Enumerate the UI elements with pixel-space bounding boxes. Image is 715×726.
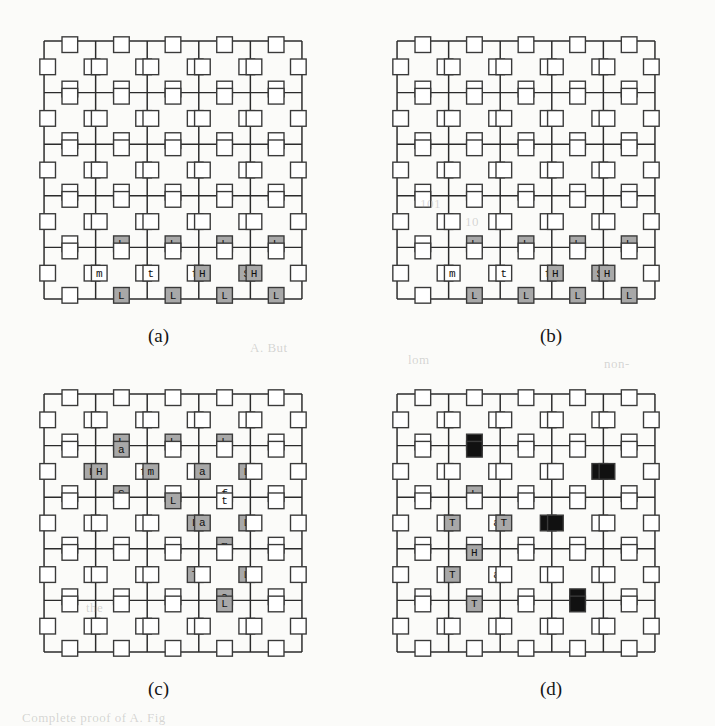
site-empty[interactable] [415, 288, 431, 304]
site-empty[interactable] [548, 412, 564, 428]
site-empty[interactable] [548, 59, 564, 75]
site-shaded[interactable]: T [496, 515, 512, 531]
site-empty[interactable] [496, 618, 512, 634]
site-empty[interactable] [467, 140, 483, 156]
site-empty[interactable] [496, 214, 512, 230]
site-empty[interactable] [548, 214, 564, 230]
site-empty[interactable] [518, 441, 534, 457]
site-empty[interactable] [91, 214, 107, 230]
site-empty[interactable] [444, 111, 460, 127]
site-empty[interactable] [518, 192, 534, 208]
site-empty[interactable] [444, 412, 460, 428]
site-labeled[interactable]: m [444, 265, 460, 281]
site-empty[interactable] [291, 265, 307, 281]
site-empty[interactable] [217, 243, 233, 259]
site-empty[interactable] [195, 111, 211, 127]
site-empty[interactable] [518, 493, 534, 509]
site-empty[interactable] [143, 162, 159, 178]
site-empty[interactable] [644, 265, 660, 281]
site-empty[interactable] [268, 140, 284, 156]
site-empty[interactable] [621, 243, 637, 259]
site-empty[interactable] [393, 618, 409, 634]
site-shaded[interactable]: T [444, 567, 460, 583]
site-empty[interactable] [444, 162, 460, 178]
site-empty[interactable] [415, 243, 431, 259]
site-empty[interactable] [40, 618, 56, 634]
site-empty[interactable] [518, 243, 534, 259]
site-empty[interactable] [621, 88, 637, 104]
site-empty[interactable] [570, 493, 586, 509]
site-empty[interactable] [246, 618, 262, 634]
site-empty[interactable] [415, 596, 431, 612]
site-empty[interactable] [644, 412, 660, 428]
site-empty[interactable] [62, 441, 78, 457]
site-empty[interactable] [415, 390, 431, 406]
site-empty[interactable] [644, 111, 660, 127]
site-empty[interactable] [467, 37, 483, 53]
site-empty[interactable] [62, 192, 78, 208]
site-empty[interactable] [570, 641, 586, 657]
site-occupied[interactable] [570, 596, 586, 612]
site-empty[interactable] [644, 464, 660, 480]
site-empty[interactable] [62, 88, 78, 104]
site-empty[interactable] [518, 37, 534, 53]
site-empty[interactable] [621, 140, 637, 156]
site-empty[interactable] [644, 162, 660, 178]
site-shaded[interactable]: L [268, 288, 284, 304]
site-empty[interactable] [415, 641, 431, 657]
site-occupied[interactable] [467, 441, 483, 457]
site-empty[interactable] [291, 111, 307, 127]
site-shaded[interactable]: a [114, 441, 130, 457]
site-empty[interactable] [268, 390, 284, 406]
site-empty[interactable] [246, 162, 262, 178]
site-empty[interactable] [599, 59, 615, 75]
site-empty[interactable] [62, 596, 78, 612]
site-shaded[interactable]: H [548, 265, 564, 281]
site-empty[interactable] [114, 192, 130, 208]
site-empty[interactable] [62, 493, 78, 509]
site-empty[interactable] [518, 596, 534, 612]
site-empty[interactable] [467, 641, 483, 657]
site-shaded[interactable]: a [195, 515, 211, 531]
site-empty[interactable] [599, 567, 615, 583]
site-empty[interactable] [467, 390, 483, 406]
site-empty[interactable] [291, 412, 307, 428]
site-empty[interactable] [415, 88, 431, 104]
site-empty[interactable] [165, 441, 181, 457]
site-empty[interactable] [246, 567, 262, 583]
site-empty[interactable] [621, 641, 637, 657]
site-empty[interactable] [291, 618, 307, 634]
site-empty[interactable] [114, 596, 130, 612]
site-empty[interactable] [114, 641, 130, 657]
site-empty[interactable] [644, 59, 660, 75]
site-empty[interactable] [114, 140, 130, 156]
site-empty[interactable] [91, 111, 107, 127]
lattice-c[interactable]: LLLLaHfSmaLfLLtaLmTLaL [33, 383, 313, 663]
site-empty[interactable] [91, 567, 107, 583]
site-empty[interactable] [268, 641, 284, 657]
site-empty[interactable] [467, 493, 483, 509]
site-shaded[interactable]: L [217, 288, 233, 304]
site-shaded[interactable]: L [165, 493, 181, 509]
site-empty[interactable] [62, 288, 78, 304]
site-empty[interactable] [62, 390, 78, 406]
site-empty[interactable] [415, 37, 431, 53]
site-empty[interactable] [143, 515, 159, 531]
site-empty[interactable] [467, 192, 483, 208]
site-empty[interactable] [268, 192, 284, 208]
site-empty[interactable] [268, 596, 284, 612]
site-empty[interactable] [467, 88, 483, 104]
site-empty[interactable] [268, 493, 284, 509]
site-shaded[interactable]: L [114, 288, 130, 304]
site-empty[interactable] [621, 596, 637, 612]
site-empty[interactable] [570, 37, 586, 53]
site-empty[interactable] [496, 412, 512, 428]
site-empty[interactable] [291, 214, 307, 230]
site-labeled[interactable]: m [91, 265, 107, 281]
site-empty[interactable] [393, 464, 409, 480]
site-empty[interactable] [40, 567, 56, 583]
site-empty[interactable] [62, 243, 78, 259]
site-empty[interactable] [62, 140, 78, 156]
site-empty[interactable] [444, 214, 460, 230]
site-empty[interactable] [40, 464, 56, 480]
